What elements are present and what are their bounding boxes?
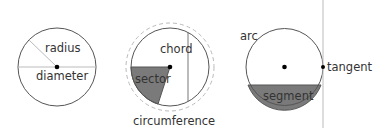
center-dot-2 [168,65,173,70]
panel-chord-sector-circumference: chord sector circumference [126,23,215,128]
tangent-point-dot [321,65,325,69]
sector-label: sector [135,72,171,86]
radius-label: radius [45,41,81,55]
tangent-label: tangent [327,60,373,74]
segment-label: segment [263,89,314,103]
panel-radius-diameter: radius diameter [18,28,96,106]
circumference-label: circumference [133,114,215,128]
circle-parts-diagram: radius diameter chord sector circumferen… [0,0,377,136]
chord-label: chord [160,42,192,56]
panel-arc-segment-tangent: arc tangent segment [240,0,373,128]
diameter-label: diameter [36,69,88,83]
arc-label: arc [240,29,258,43]
center-dot-3 [282,65,287,70]
